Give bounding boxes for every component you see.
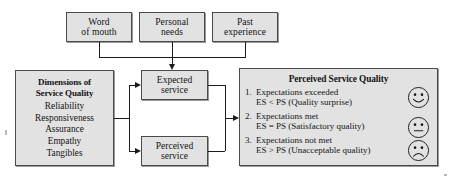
connector-expected-out bbox=[208, 85, 225, 86]
dimensions-item: Assurance bbox=[35, 124, 94, 136]
dimensions-heading-line1: Dimensions of bbox=[36, 77, 94, 88]
source-box-past-experience: Past experience bbox=[212, 12, 278, 42]
dimensions-heading: Dimensions of Service Quality bbox=[36, 77, 94, 99]
connector-dimensions-spine bbox=[129, 85, 130, 151]
connector-personal-drop bbox=[172, 42, 173, 57]
outcome-row-line1: Expectations exceeded bbox=[256, 87, 352, 98]
connector-past-drop bbox=[245, 42, 246, 57]
connector-dimensions-out bbox=[114, 118, 129, 119]
outcome-panel-title: Perceived Service Quality bbox=[240, 74, 437, 84]
dimensions-item-list: Reliability Responsiveness Assurance Emp… bbox=[35, 101, 94, 160]
source-box-line1: Personal bbox=[155, 17, 189, 27]
perceived-service-line1: Perceived bbox=[156, 141, 193, 151]
dimensions-item: Reliability bbox=[35, 101, 94, 113]
dimensions-heading-line2: Service Quality bbox=[36, 88, 94, 99]
source-box-line2: needs bbox=[161, 27, 183, 37]
neutral-face-icon bbox=[407, 116, 430, 139]
dimensions-item: Tangibles bbox=[35, 148, 94, 160]
dimensions-box: Dimensions of Service Quality Reliabilit… bbox=[15, 70, 114, 166]
outcome-row-number: 1. bbox=[245, 87, 256, 98]
source-box-line1: Word bbox=[88, 17, 109, 27]
perceived-service-line2: service bbox=[161, 151, 188, 161]
outcome-row-line2: ES < PS (Quality surprise) bbox=[256, 97, 352, 108]
diagram-canvas: Word of mouth Personal needs Past experi… bbox=[0, 0, 450, 184]
source-box-word-of-mouth: Word of mouth bbox=[66, 12, 132, 42]
outcome-row-line1: Expectations not met bbox=[256, 135, 371, 146]
perceived-service-box: Perceived service bbox=[141, 136, 208, 166]
outcome-row-text: Expectations not met ES > PS (Unacceptab… bbox=[256, 135, 371, 157]
smiling-face-icon bbox=[407, 86, 430, 109]
dimensions-item: Responsiveness bbox=[35, 113, 94, 125]
outcome-row-number: 3. bbox=[245, 135, 256, 146]
outcome-row-line1: Expectations met bbox=[256, 111, 365, 122]
outcome-row-text: Expectations exceeded ES < PS (Quality s… bbox=[256, 87, 352, 109]
connector-word-drop bbox=[99, 42, 100, 57]
expected-service-line2: service bbox=[161, 85, 188, 95]
source-box-personal-needs: Personal needs bbox=[139, 12, 205, 42]
source-box-line2: experience bbox=[224, 27, 266, 37]
scan-speck bbox=[444, 174, 447, 176]
outcome-row-line2: ES > PS (Unacceptable quality) bbox=[256, 145, 371, 156]
connector-perceived-out bbox=[208, 151, 225, 152]
outcome-row-number: 2. bbox=[245, 111, 256, 122]
scan-speck bbox=[5, 130, 7, 135]
source-box-line2: of mouth bbox=[81, 27, 116, 37]
outcome-row-text: Expectations met ES = PS (Satisfactory q… bbox=[256, 111, 365, 133]
expected-service-line1: Expected bbox=[157, 75, 192, 85]
outcome-row-line2: ES = PS (Satisfactory quality) bbox=[256, 121, 365, 132]
source-box-line1: Past bbox=[237, 17, 253, 27]
perceived-service-quality-panel: Perceived Service Quality 1. Expectation… bbox=[239, 68, 438, 166]
expected-service-box: Expected service bbox=[141, 70, 208, 100]
dimensions-item: Empathy bbox=[35, 136, 94, 148]
frowning-face-icon bbox=[407, 139, 430, 162]
